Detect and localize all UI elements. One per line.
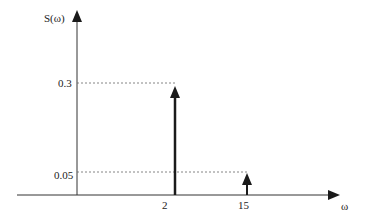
impulse-arrow-icon bbox=[170, 86, 180, 98]
x-axis-arrow-icon bbox=[328, 190, 340, 200]
x-tick-2: 2 bbox=[162, 199, 168, 211]
x-tick-15: 15 bbox=[238, 199, 250, 211]
impulse-arrow-icon bbox=[242, 173, 252, 185]
y-tick-0.05: 0.05 bbox=[54, 169, 74, 181]
x-axis-label: ω bbox=[341, 200, 348, 212]
spectrum-chart: S(ω) 0.3 0.05 2 15 ω bbox=[0, 0, 374, 214]
y-axis-label: S(ω) bbox=[44, 12, 65, 25]
y-tick-0.3: 0.3 bbox=[58, 77, 72, 89]
y-axis-arrow-icon bbox=[72, 10, 82, 22]
